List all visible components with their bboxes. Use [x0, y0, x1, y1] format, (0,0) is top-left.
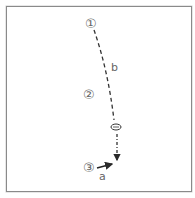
path-b — [94, 30, 114, 120]
diagram-canvas: ① ② ③ b a — [0, 0, 195, 198]
label-a: a — [99, 170, 106, 183]
path-a-arrow — [97, 164, 112, 168]
marker-1: ① — [85, 16, 97, 31]
marker-3: ③ — [83, 160, 95, 175]
label-b: b — [111, 61, 118, 74]
waypoint-ellipse-icon — [111, 124, 121, 130]
marker-2: ② — [83, 87, 95, 102]
